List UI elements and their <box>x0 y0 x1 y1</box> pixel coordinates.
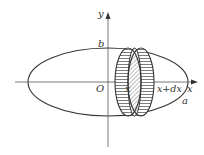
label-x-axis: x <box>187 84 193 94</box>
label-y-axis: y <box>98 9 104 19</box>
label-b: b <box>98 39 104 49</box>
label-a: a <box>182 96 188 106</box>
diagram-canvas <box>0 0 204 155</box>
label-x-plus-dx: x+dx <box>157 84 182 94</box>
label-origin: O <box>96 84 104 94</box>
cross-section-hatch <box>128 48 141 116</box>
label-x: x <box>125 84 131 94</box>
y-axis-arrow-icon <box>106 12 111 19</box>
